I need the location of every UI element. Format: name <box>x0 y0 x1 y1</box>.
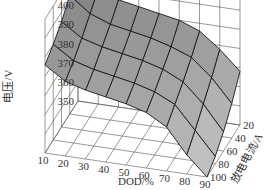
voltage-surface <box>45 0 240 177</box>
svg-text:370: 370 <box>58 57 75 69</box>
svg-text:360: 360 <box>58 76 75 88</box>
svg-text:80: 80 <box>179 175 191 187</box>
surface-chart: 3503603703803904004104201020304050607080… <box>0 0 266 190</box>
svg-text:20: 20 <box>58 157 70 169</box>
svg-text:70: 70 <box>159 172 171 184</box>
svg-text:100: 100 <box>210 171 227 183</box>
svg-text:80: 80 <box>218 158 230 170</box>
svg-text:390: 390 <box>58 18 75 30</box>
x-axis-label: DOD/% <box>118 175 154 187</box>
svg-text:10: 10 <box>38 154 50 166</box>
svg-text:60: 60 <box>227 145 239 157</box>
svg-text:380: 380 <box>58 38 75 50</box>
y-axis-label: 放电电流/A <box>227 131 264 186</box>
svg-text:350: 350 <box>58 95 75 107</box>
z-axis-label: 电压/V <box>2 69 14 102</box>
svg-text:20: 20 <box>243 119 255 131</box>
svg-text:40: 40 <box>98 163 110 175</box>
svg-text:30: 30 <box>78 160 90 172</box>
svg-text:40: 40 <box>235 132 247 144</box>
svg-text:400: 400 <box>58 0 75 11</box>
